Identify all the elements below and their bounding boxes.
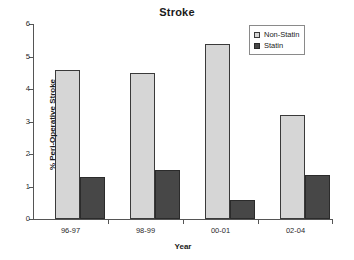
bar-non-statin	[130, 73, 155, 219]
bar-non-statin	[280, 115, 305, 219]
y-tick-label: 3	[26, 117, 30, 126]
legend-swatch-icon	[254, 32, 260, 38]
bar-group-96-97	[33, 24, 108, 219]
legend-swatch-icon	[254, 43, 260, 49]
x-axis-title: Year	[33, 242, 333, 251]
y-tick-0: 0	[33, 219, 34, 220]
bar-statin	[155, 170, 180, 219]
chart-legend: Non-Statin Statin	[249, 25, 305, 55]
y-tick-label: 5	[26, 52, 30, 61]
bar-group-00-01	[183, 24, 258, 219]
x-tick-4	[332, 220, 333, 224]
bar-non-statin	[55, 70, 80, 220]
bar-statin	[305, 175, 330, 219]
y-tick-label: 1	[26, 182, 30, 191]
legend-label: Non-Statin	[264, 30, 299, 39]
y-tick-label: 6	[26, 19, 30, 28]
bar-statin	[80, 177, 105, 219]
bar-group-98-99	[108, 24, 183, 219]
y-axis-title: % Peri-Operative Stroke	[48, 60, 57, 190]
x-category-label-3: 02-04	[258, 226, 333, 235]
stroke-bar-chart: Stroke 0 1 2 3 4 5 6	[0, 0, 354, 260]
x-category-label-2: 00-01	[183, 226, 258, 235]
x-category-label-0: 96-97	[33, 226, 108, 235]
legend-item-non-statin: Non-Statin	[254, 29, 299, 40]
bar-non-statin	[205, 44, 230, 220]
x-tick-3	[258, 220, 259, 224]
legend-item-statin: Statin	[254, 40, 299, 51]
bar-statin	[230, 200, 255, 220]
y-tick-label: 4	[26, 84, 30, 93]
y-tick-label: 0	[26, 214, 30, 223]
y-tick-label: 2	[26, 149, 30, 158]
legend-label: Statin	[264, 41, 283, 50]
x-tick-1	[108, 220, 109, 224]
chart-title: Stroke	[0, 6, 354, 18]
x-tick-2	[183, 220, 184, 224]
x-category-label-1: 98-99	[108, 226, 183, 235]
